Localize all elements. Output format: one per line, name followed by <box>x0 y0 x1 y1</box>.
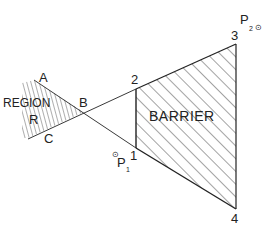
point-p1-label: P <box>117 156 126 169</box>
vertex-label-2: 2 <box>131 73 138 86</box>
vertex-label-4: 4 <box>231 212 238 225</box>
vertex-label-1: 1 <box>130 149 137 162</box>
point-p2-subscript: 2 <box>249 25 253 32</box>
label-c: C <box>44 132 53 145</box>
barrier-shape <box>136 44 236 209</box>
label-a: A <box>39 71 48 84</box>
label-b: B <box>79 96 88 109</box>
point-p1-subscript: 1 <box>126 166 130 173</box>
vertex-label-3: 3 <box>231 29 238 42</box>
label-barrier: BARRIER <box>149 109 215 123</box>
point-p2-label: P <box>240 13 249 26</box>
label-r: R <box>29 113 38 126</box>
point-p2-marker-icon: ⊙ <box>255 24 262 32</box>
label-region: REGION <box>3 97 50 109</box>
